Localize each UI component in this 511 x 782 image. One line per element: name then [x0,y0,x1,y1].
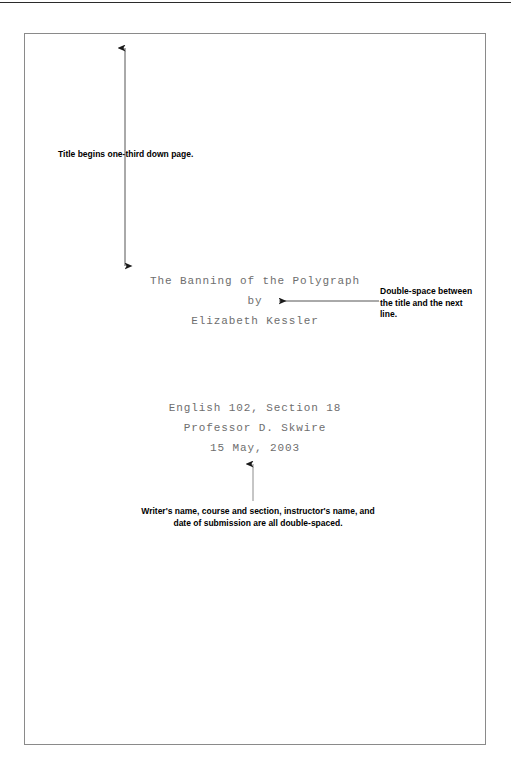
annotation-arrow-layer [25,34,487,746]
document-page-screenshot: The Banning of the Polygraph by Elizabet… [0,0,511,782]
outer-frame-top-rule [0,2,511,3]
annotation-all-double-spaced: Writer's name, course and section, instr… [133,506,383,529]
annotation-title-position: Title begins one-third down page. [58,149,193,161]
paper-sheet: The Banning of the Polygraph by Elizabet… [24,33,486,745]
annotation-double-space-after-title: Double-space between the title and the n… [380,286,480,321]
manuscript-course-section: English 102, Section 18 [25,402,485,414]
manuscript-submission-date: 15 May, 2003 [25,442,485,454]
manuscript-instructor-name: Professor D. Skwire [25,422,485,434]
